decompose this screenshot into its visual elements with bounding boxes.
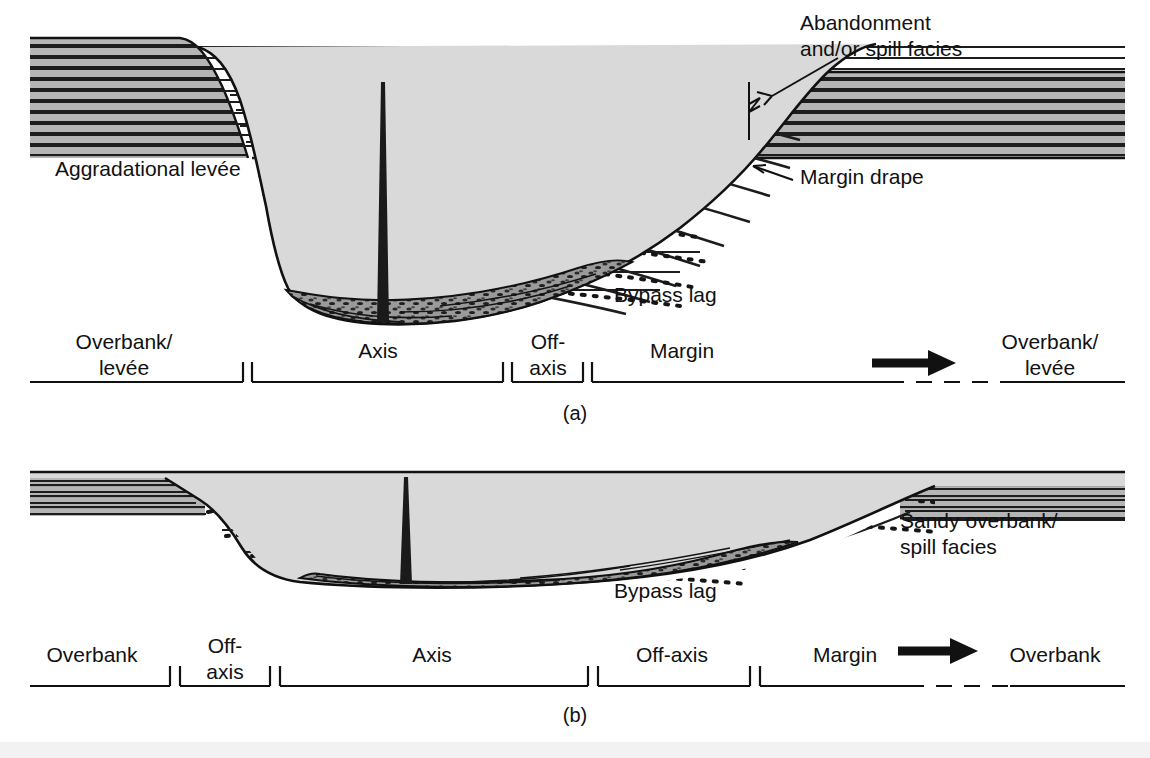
label-abandonment-spill-facies-line1: Abandonment <box>800 11 931 34</box>
zone-label-overbank-right-b: Overbank <box>1009 643 1101 666</box>
zone-label-off-axis-left-b-line1: Off- <box>208 634 243 657</box>
figure-root: Aggradational levée Abandonment and/or s… <box>0 0 1150 758</box>
zone-label-axis-b: Axis <box>412 643 452 666</box>
label-aggradational-levee: Aggradational levée <box>55 157 241 180</box>
zone-label-off-axis-a-line2: axis <box>529 356 566 379</box>
cross-section-figure: Aggradational levée Abandonment and/or s… <box>0 0 1150 758</box>
label-bypass-lag-a: Bypass lag <box>614 283 717 306</box>
zone-label-off-axis-left-b-line2: axis <box>206 660 243 683</box>
zone-label-overbank-levee-right-line2: levée <box>1025 356 1075 379</box>
zone-label-overbank-levee-left-line1: Overbank/ <box>76 330 173 353</box>
zone-label-overbank-levee-right-line1: Overbank/ <box>1002 330 1099 353</box>
label-margin-drape: Margin drape <box>800 165 924 188</box>
label-sandy-overbank-spill-facies-line2: spill facies <box>900 535 997 558</box>
label-sandy-overbank-spill-facies-line1: Sandy overbank/ <box>900 509 1058 532</box>
label-abandonment-spill-facies-line2: and/or spill facies <box>800 37 962 60</box>
label-bypass-lag-b: Bypass lag <box>614 579 717 602</box>
zone-label-overbank-levee-left-line2: levée <box>99 356 149 379</box>
zone-label-margin-a: Margin <box>650 339 714 362</box>
zone-label-axis-a: Axis <box>358 339 398 362</box>
page-bottom-strip <box>0 742 1150 758</box>
zone-label-margin-b: Margin <box>813 643 877 666</box>
zone-label-off-axis-a-line1: Off- <box>531 330 566 353</box>
zone-label-off-axis-right-b: Off-axis <box>636 643 708 666</box>
zone-label-overbank-left-b: Overbank <box>46 643 138 666</box>
panel-caption-b: (b) <box>563 704 587 726</box>
panel-caption-a: (a) <box>563 402 587 424</box>
